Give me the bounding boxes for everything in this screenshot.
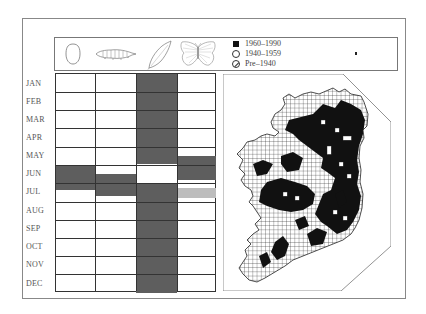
isolated-record-dot-icon [355,52,357,55]
open-circle-icon [232,50,240,58]
larva-bar [95,174,136,196]
legend: 1960–1990 1940–1959 Pre–1940 [232,39,281,69]
month-label-sep: SEP [26,224,40,233]
legend-item-pre-1940: Pre–1940 [232,59,281,69]
legend-label: 1940–1959 [245,49,281,59]
butterfly-icon [179,40,217,68]
month-label-mar: MAR [26,115,45,124]
filled-square-icon [233,41,239,47]
pupa-icon [147,40,173,70]
month-label-dec: DEC [26,279,43,288]
month-label-aug: AUG [26,206,44,215]
adult-bar [177,156,216,180]
month-label-oct: OCT [26,242,43,251]
adult-bar-partial [177,188,216,198]
phenology-chart [55,73,216,292]
month-label-nov: NOV [26,260,44,269]
legend-label: Pre–1940 [245,59,276,69]
month-label-apr: APR [26,133,42,142]
egg-icon [65,43,81,65]
pupa-bar-winter [136,74,177,164]
header-box: 1960–1990 1940–1959 Pre–1940 [54,37,398,71]
larva-icon [95,47,137,61]
month-label-jan: JAN [26,79,41,88]
month-label-feb: FEB [26,97,41,106]
legend-item-1940-1959: 1940–1959 [232,49,281,59]
month-label-may: MAY [26,151,45,160]
legend-item-1960-1990: 1960–1990 [232,39,281,49]
legend-label: 1960–1990 [245,39,281,49]
hatched-circle-icon [232,60,240,68]
month-label-jul: JUL [26,187,40,196]
distribution-map [223,74,391,291]
egg-bar [56,165,95,190]
month-label-jun: JUN [26,169,41,178]
